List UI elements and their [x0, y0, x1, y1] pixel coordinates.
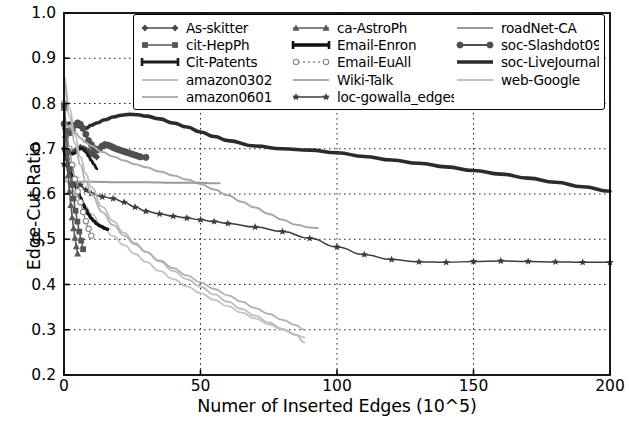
- y-tick-label: 0.6: [2, 185, 56, 203]
- y-tick-label: 0.4: [2, 276, 56, 294]
- legend-swatch-icon: [290, 90, 332, 104]
- legend-swatch-icon: [454, 21, 496, 35]
- legend-label: amazon0601: [186, 89, 272, 105]
- legend-swatch-icon: [290, 21, 332, 35]
- y-tick-label: 0.8: [2, 95, 56, 113]
- legend-swatch-icon: [139, 73, 181, 87]
- y-tick-label: 0.5: [2, 230, 56, 248]
- x-tick-label: 200: [580, 377, 629, 395]
- x-tick-label: 150: [444, 377, 504, 395]
- legend-label: soc-LiveJournal1: [501, 54, 599, 70]
- legend-swatch-icon: [139, 90, 181, 104]
- legend-swatch-icon: [139, 38, 181, 52]
- legend-label: web-Google: [501, 72, 580, 88]
- legend-item-email-euall: Email-EuAll: [290, 54, 454, 71]
- legend-item-loc-gowalla-edges: loc-gowalla_edges: [290, 89, 454, 106]
- y-tick-label: 0.7: [2, 140, 56, 158]
- legend-item-ca-astroph: ca-AstroPh: [290, 19, 454, 36]
- legend-swatch-icon: [454, 38, 496, 52]
- x-axis-label: Numer of Inserted Edges (10^5): [64, 396, 610, 416]
- legend-item-as-skitter: As-skitter: [139, 19, 290, 36]
- legend-item-roadnet-ca: roadNet-CA: [454, 19, 599, 36]
- legend-label: cit-HepPh: [186, 37, 249, 53]
- legend-item-soc-slashdot0902: soc-Slashdot0902: [454, 36, 599, 53]
- y-axis-label: Edge-Cut Ratio: [24, 76, 44, 336]
- legend-label: roadNet-CA: [501, 20, 577, 36]
- legend-label: Cit-Patents: [186, 54, 257, 70]
- legend-item-cit-hepph: cit-HepPh: [139, 36, 290, 53]
- legend-swatch-icon: [454, 55, 496, 69]
- legend-swatch-icon: [290, 55, 332, 69]
- y-tick-label: 1.0: [2, 4, 56, 22]
- legend-swatch-icon: [454, 73, 496, 87]
- legend-label: soc-Slashdot0902: [501, 37, 599, 53]
- legend-label: ca-AstroPh: [337, 20, 407, 36]
- legend-swatch-icon: [290, 38, 332, 52]
- x-tick-label: 100: [307, 377, 367, 395]
- legend-item-web-google: web-Google: [454, 71, 599, 88]
- legend-label: Email-EuAll: [337, 54, 411, 70]
- legend-swatch-icon: [290, 73, 332, 87]
- legend-label: As-skitter: [186, 20, 248, 36]
- legend-item-cit-patents: Cit-Patents: [139, 54, 290, 71]
- y-tick-label: 0.9: [2, 49, 56, 67]
- legend-label: amazon0302: [186, 72, 272, 88]
- legend: As-skitterca-AstroPhroadNet-CAcit-HepPhE…: [133, 14, 605, 110]
- legend-item-soc-livejournal1: soc-LiveJournal1: [454, 54, 599, 71]
- legend-label: Email-Enron: [337, 37, 416, 53]
- x-tick-label: 50: [171, 377, 231, 395]
- legend-label: Wiki-Talk: [337, 72, 393, 88]
- legend-label: loc-gowalla_edges: [337, 89, 454, 105]
- legend-item-amazon0302: amazon0302: [139, 71, 290, 88]
- y-tick-label: 0.3: [2, 321, 56, 339]
- series-soc-LiveJournal1: [64, 114, 610, 191]
- legend-item-amazon0601: amazon0601: [139, 89, 290, 106]
- legend-swatch-icon: [139, 55, 181, 69]
- legend-item-email-enron: Email-Enron: [290, 36, 454, 53]
- legend-swatch-icon: [139, 21, 181, 35]
- legend-item-wiki-talk: Wiki-Talk: [290, 71, 454, 88]
- x-tick-label: 0: [34, 377, 94, 395]
